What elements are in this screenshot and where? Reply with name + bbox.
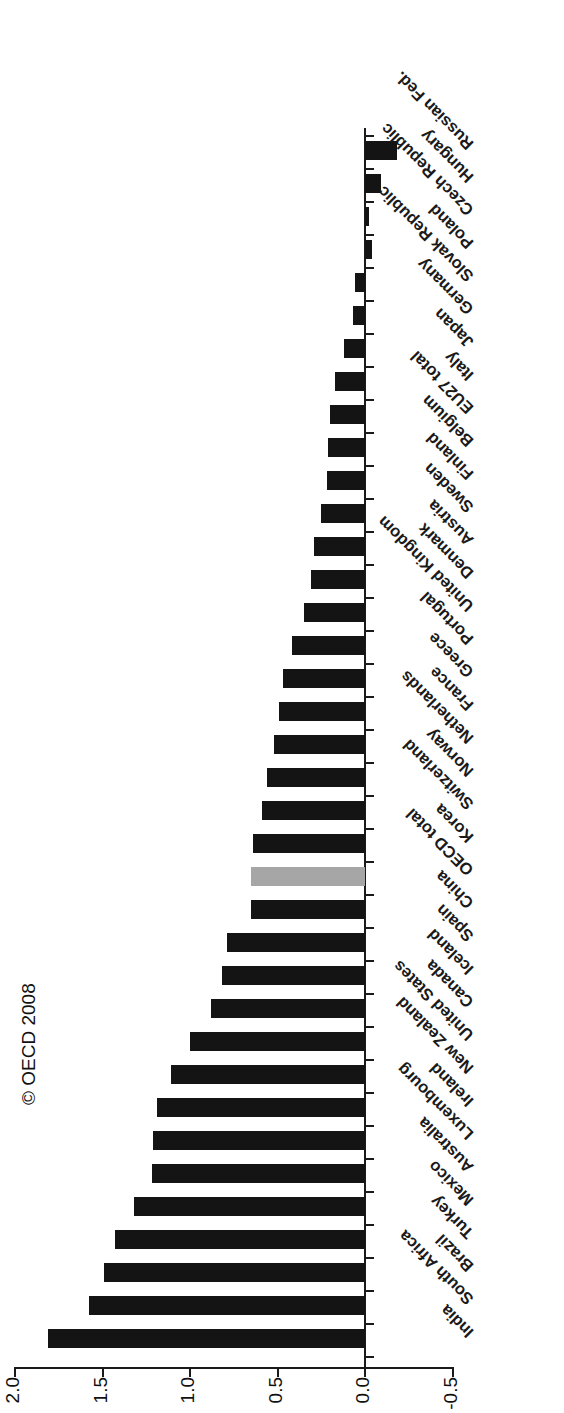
category-tick <box>365 168 374 170</box>
category-tick <box>365 234 374 236</box>
category-tick <box>365 432 374 434</box>
bar-row <box>0 662 33 695</box>
bar <box>157 1098 365 1117</box>
bar <box>227 933 365 952</box>
bar-row <box>0 1322 33 1355</box>
category-tick <box>365 1290 374 1292</box>
bar <box>251 867 365 886</box>
bar <box>48 1329 365 1348</box>
value-axis-spine <box>15 1367 453 1369</box>
value-axis-label: -0.5 <box>440 1377 462 1413</box>
bar <box>328 438 365 457</box>
bar-row <box>0 1190 33 1223</box>
bar-row <box>0 233 33 266</box>
category-tick <box>365 1026 374 1028</box>
bar <box>253 834 365 853</box>
bar-row <box>0 398 33 431</box>
bar <box>335 372 365 391</box>
bar <box>330 405 365 424</box>
value-axis-tick <box>364 1367 366 1377</box>
bar <box>152 1164 366 1183</box>
category-tick <box>365 498 374 500</box>
bar <box>311 570 365 589</box>
bar-row <box>0 200 33 233</box>
bar-row <box>0 167 33 200</box>
category-tick <box>365 201 374 203</box>
bar <box>251 900 365 919</box>
value-axis-label: 2.0 <box>2 1377 24 1413</box>
category-tick <box>365 927 374 929</box>
bar-row <box>0 530 33 563</box>
bar <box>104 1263 365 1282</box>
bar <box>304 603 365 622</box>
bar <box>353 306 365 325</box>
bar <box>262 801 365 820</box>
bar-row <box>0 431 33 464</box>
category-tick <box>365 531 374 533</box>
bar-row <box>0 266 33 299</box>
category-tick <box>365 465 374 467</box>
value-axis-label: 0.5 <box>265 1377 287 1413</box>
value-axis-label: 0.0 <box>352 1377 374 1413</box>
bar-row <box>0 332 33 365</box>
category-tick <box>365 729 374 731</box>
bar-row <box>0 299 33 332</box>
category-tick <box>365 1059 374 1061</box>
category-tick <box>365 630 374 632</box>
category-tick <box>365 861 374 863</box>
bar <box>365 240 372 259</box>
category-tick <box>365 1323 374 1325</box>
bar <box>292 636 366 655</box>
category-tick <box>365 1191 374 1193</box>
value-axis-tick <box>14 1367 16 1377</box>
bar-row <box>0 926 33 959</box>
category-tick <box>365 696 374 698</box>
category-tick <box>365 993 374 995</box>
bar-row <box>0 629 33 662</box>
category-tick <box>365 267 374 269</box>
bar <box>134 1197 365 1216</box>
bar <box>327 471 366 490</box>
bar <box>283 669 365 688</box>
category-label: India <box>437 1301 478 1342</box>
bar-row <box>0 134 33 167</box>
value-axis-tick <box>189 1367 191 1377</box>
bar <box>115 1230 365 1249</box>
bar <box>314 537 365 556</box>
category-tick <box>365 960 374 962</box>
category-tick <box>365 597 374 599</box>
category-tick <box>365 795 374 797</box>
value-axis-tick <box>102 1367 104 1377</box>
copyright-note: © OECD 2008 <box>18 983 40 1105</box>
bar-row <box>0 695 33 728</box>
category-tick <box>365 1257 374 1259</box>
bar <box>267 768 365 787</box>
bar-row <box>0 365 33 398</box>
category-tick <box>365 762 374 764</box>
bar <box>190 1032 365 1051</box>
value-axis-label: 1.5 <box>90 1377 112 1413</box>
category-tick <box>365 1158 374 1160</box>
category-tick <box>365 1092 374 1094</box>
bar <box>365 207 369 226</box>
value-axis-label: 1.0 <box>177 1377 199 1413</box>
bar-row <box>0 497 33 530</box>
category-tick <box>365 300 374 302</box>
category-tick <box>365 399 374 401</box>
bar <box>211 999 365 1018</box>
bar-row <box>0 464 33 497</box>
bar-row <box>0 1256 33 1289</box>
category-tick <box>365 564 374 566</box>
category-tick <box>365 333 374 335</box>
bar-row <box>0 893 33 926</box>
value-axis-tick <box>452 1367 454 1377</box>
bar <box>171 1065 365 1084</box>
bar-row <box>0 794 33 827</box>
bar <box>89 1296 366 1315</box>
bar-row <box>0 761 33 794</box>
bar-row <box>0 860 33 893</box>
category-tick <box>365 135 374 137</box>
bar-row <box>0 728 33 761</box>
